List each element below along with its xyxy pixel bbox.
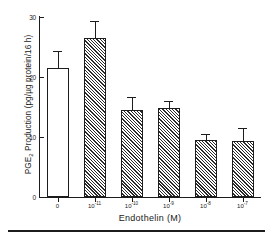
bar — [121, 110, 143, 197]
error-bar-cap — [127, 97, 136, 98]
y-axis-title: PGE2 Production (pg/µg protein/16 h) — [24, 15, 33, 195]
y-axis-title-subscript: 2 — [28, 153, 34, 156]
x-axis-line — [39, 197, 261, 198]
chart-figure: PGE2 Production (pg/µg protein/16 h) 010… — [0, 0, 273, 239]
x-tick-base: 10 — [237, 203, 244, 209]
x-tick-exponent: -7 — [244, 201, 248, 206]
error-bar-stem — [243, 128, 244, 141]
error-bar-cap — [238, 128, 247, 129]
x-tick-exponent: -10 — [132, 201, 139, 206]
bar — [232, 141, 254, 197]
y-axis-tick-label: 30 — [22, 14, 36, 21]
error-bar-stem — [58, 51, 59, 68]
error-bar-stem — [132, 97, 133, 110]
y-axis-tick — [40, 17, 44, 18]
error-bar-cap — [90, 21, 99, 22]
y-axis-title-prefix: PGE — [24, 157, 33, 175]
x-axis-tick-label: 10-11 — [77, 203, 113, 209]
x-axis-tick-label: 10-8 — [188, 203, 224, 209]
x-tick-base: 10 — [200, 203, 207, 209]
x-tick-exponent: -8 — [207, 201, 211, 206]
y-axis-tick-label: 0 — [22, 194, 36, 201]
x-tick-base: 10 — [88, 203, 95, 209]
bar — [195, 140, 217, 197]
x-axis-title: Endothelin (M) — [39, 213, 261, 223]
error-bar-cap — [164, 101, 173, 102]
x-tick-base: 10 — [125, 203, 132, 209]
x-axis-tick-label: 10-7 — [225, 203, 261, 209]
y-axis-tick-label: 20 — [22, 74, 36, 81]
figure-bottom-rule — [8, 230, 265, 232]
error-bar-cap — [53, 51, 62, 52]
y-axis-tick — [40, 137, 44, 138]
x-axis-tick-label: 0 — [40, 203, 76, 209]
y-axis-tick — [40, 77, 44, 78]
bar — [47, 68, 69, 197]
bar — [158, 108, 180, 197]
x-axis-tick — [58, 198, 59, 202]
x-tick-exponent: -9 — [170, 201, 174, 206]
bar — [84, 38, 106, 197]
error-bar-stem — [95, 21, 96, 38]
x-tick-base: 10 — [163, 203, 170, 209]
x-axis-tick-label: 10-10 — [114, 203, 150, 209]
y-axis-tick-label: 10 — [22, 134, 36, 141]
y-axis-tick — [40, 197, 44, 198]
y-axis-line — [39, 16, 40, 198]
error-bar-cap — [201, 134, 210, 135]
x-axis-tick-label: 10-9 — [151, 203, 187, 209]
x-tick-exponent: -11 — [95, 201, 101, 206]
error-bar-stem — [169, 101, 170, 108]
